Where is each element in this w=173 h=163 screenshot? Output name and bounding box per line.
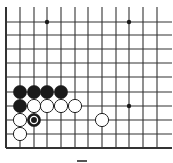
black-stone	[40, 85, 53, 98]
white-stone	[68, 99, 81, 112]
white-stone	[95, 113, 108, 126]
star-point	[127, 20, 131, 24]
white-stone	[13, 113, 26, 126]
star-point	[45, 20, 49, 24]
black-stone	[27, 85, 40, 98]
grid-lines	[6, 7, 172, 148]
caption-dash	[77, 160, 87, 162]
white-stone	[13, 127, 26, 140]
white-stone	[40, 99, 53, 112]
black-stone	[27, 113, 40, 126]
white-stone	[27, 99, 40, 112]
black-stone	[13, 99, 26, 112]
star-point	[127, 104, 131, 108]
black-stone	[13, 85, 26, 98]
go-board	[0, 0, 173, 163]
black-stone	[54, 85, 67, 98]
white-stone	[54, 99, 67, 112]
